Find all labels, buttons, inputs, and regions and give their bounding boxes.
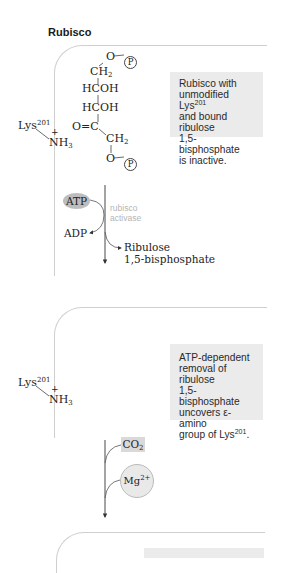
co2-input-arrow [105,445,121,463]
mg-input-arrow [105,480,120,498]
atp-adp-arrow [90,200,104,233]
product-release-arrow [105,232,121,248]
